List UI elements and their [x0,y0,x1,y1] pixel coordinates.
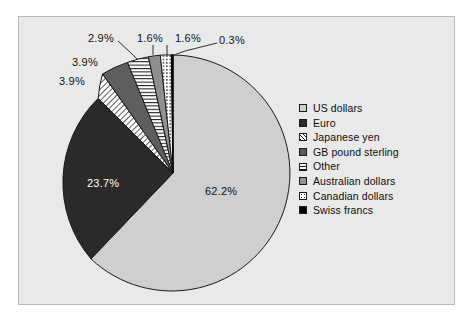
legend-label-japanese-yen: Japanese yen [313,132,380,143]
legend-item-euro[interactable]: Euro [299,116,449,131]
legend-swatch-other-icon [299,163,307,171]
legend-item-canadian-dollars[interactable]: Canadian dollars [299,189,449,204]
legend-label-swiss-francs: Swiss francs [313,205,373,216]
value-label-japanese-yen: 3.9% [59,75,85,87]
legend-swatch-canadian-dollars-icon [299,192,307,200]
chart-legend: US dollars Euro Japanese yen GB pound st… [299,101,449,218]
value-label-euro: 23.7% [87,177,119,189]
legend-item-swiss-francs[interactable]: Swiss francs [299,203,449,218]
pie-chart-figure: 62.2% 23.7% 3.9% 3.9% 2.9% 1.6% 1.6% 0.3… [18,16,455,305]
value-label-other: 2.9% [88,32,114,44]
legend-label-euro: Euro [313,118,336,129]
value-label-gb-pound-sterling: 3.9% [72,56,98,68]
legend-swatch-japanese-yen-icon [299,133,307,141]
legend-label-gb-pound-sterling: GB pound sterling [313,147,399,158]
legend-item-gb-pound-sterling[interactable]: GB pound sterling [299,145,449,160]
legend-item-us-dollars[interactable]: US dollars [299,101,449,116]
legend-label-other: Other [313,161,340,172]
legend-swatch-us-dollars-icon [299,104,307,112]
legend-label-us-dollars: US dollars [313,103,362,114]
legend-label-australian-dollars: Australian dollars [313,176,395,187]
leader-line-swiss-francs [174,43,217,55]
value-label-swiss-francs: 0.3% [219,34,245,46]
value-label-canadian-dollars: 1.6% [175,32,201,44]
legend-swatch-swiss-francs-icon [299,206,307,214]
value-label-australian-dollars: 1.6% [137,32,163,44]
legend-label-canadian-dollars: Canadian dollars [313,191,393,202]
value-label-us-dollars: 62.2% [205,185,237,197]
legend-item-japanese-yen[interactable]: Japanese yen [299,130,449,145]
legend-item-other[interactable]: Other [299,159,449,174]
legend-swatch-euro-icon [299,119,307,127]
legend-swatch-australian-dollars-icon [299,177,307,185]
legend-item-australian-dollars[interactable]: Australian dollars [299,174,449,189]
legend-swatch-gb-pound-sterling-icon [299,148,307,156]
pie-slices [63,55,290,291]
leader-line-other [118,41,138,60]
